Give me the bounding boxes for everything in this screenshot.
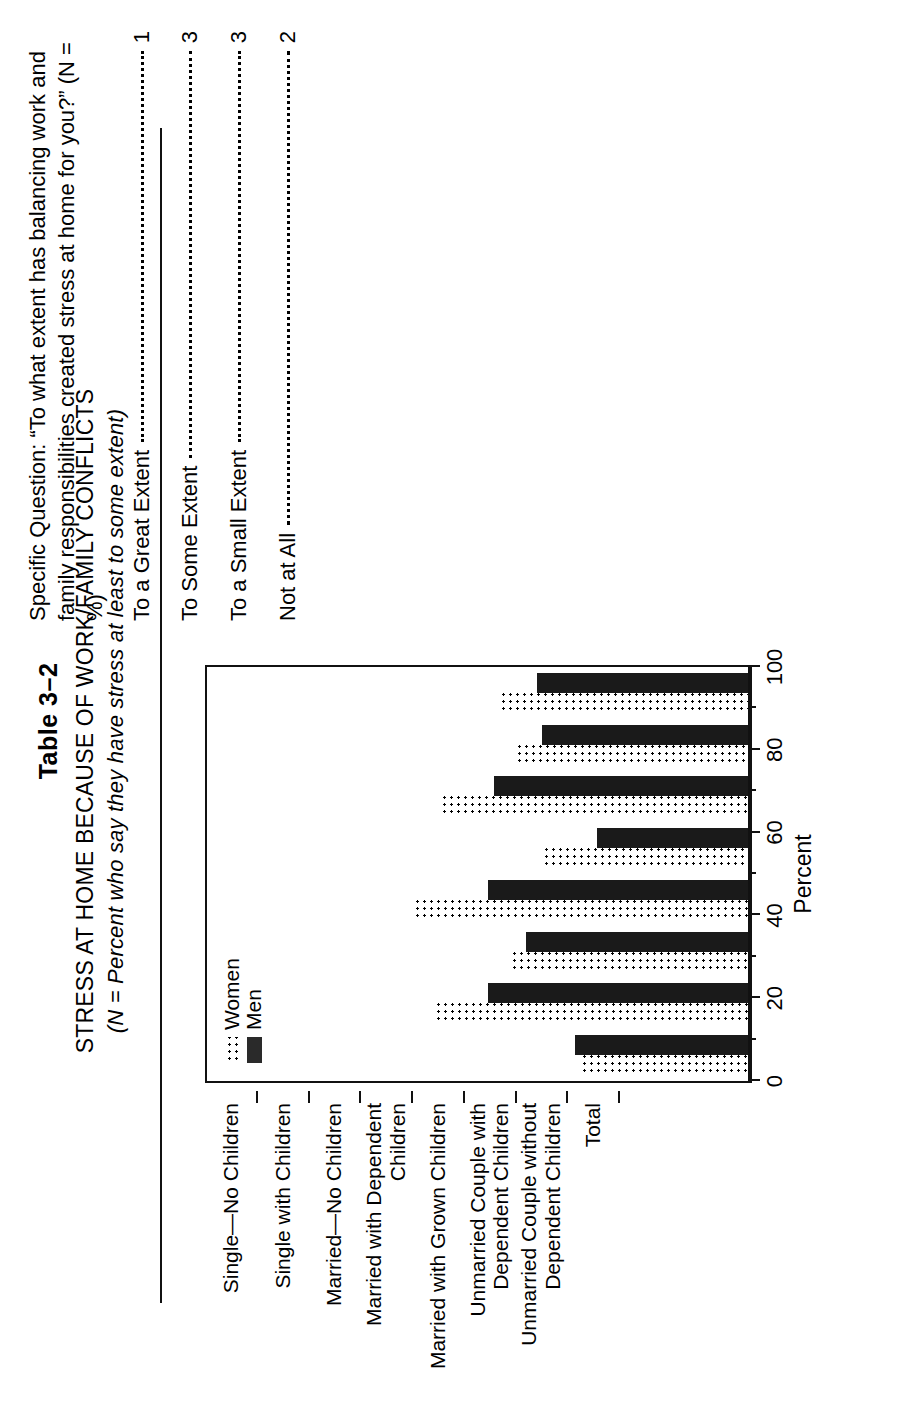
- bar-women: [542, 848, 748, 868]
- rotated-page-wrapper: Table 3–2 STRESS AT HOME BECAUSE OF WORK…: [0, 0, 906, 1421]
- axis-tick: [750, 1038, 756, 1040]
- category-label: Single—No Children: [219, 1103, 243, 1293]
- category-label: Married with Dependent Children: [363, 1103, 410, 1326]
- category-label: Total: [581, 1103, 605, 1147]
- answer-option-label: Not at All: [274, 533, 303, 621]
- bar-men: [575, 1035, 748, 1055]
- bar-women: [499, 693, 748, 713]
- bar-series-container: [207, 667, 748, 1081]
- answer-option-label: To Some Extent: [176, 466, 205, 621]
- answer-option-value: 2: [274, 31, 303, 43]
- question-note: Specific Question: “To what extent has b…: [24, 31, 322, 621]
- bar-women: [580, 1055, 748, 1075]
- percent-axis: 020406080100: [750, 665, 752, 1083]
- category-axis: Single—No ChildrenSingle with ChildrenMa…: [205, 1091, 750, 1401]
- category-tick: [308, 1091, 310, 1103]
- bar-women: [440, 796, 748, 816]
- bar-men: [597, 828, 748, 848]
- chart-plot-area: Women Men: [205, 665, 750, 1083]
- category-label: Single with Children: [271, 1103, 295, 1289]
- category-label: Married—No Children: [323, 1103, 347, 1306]
- bar-women: [413, 900, 748, 920]
- bar-men: [526, 932, 748, 952]
- axis-tick: [750, 789, 756, 791]
- category-tick: [411, 1091, 413, 1103]
- axis-tick-label: 80: [762, 738, 788, 762]
- bar-women: [434, 1003, 748, 1023]
- answer-option: To a Great Extent1: [128, 31, 157, 621]
- axis-tick: [750, 872, 756, 874]
- bar-group: [207, 880, 748, 920]
- bar-group: [207, 673, 748, 713]
- category-tick: [515, 1091, 517, 1103]
- axis-tick-label: 40: [762, 903, 788, 927]
- axis-tick: [750, 955, 756, 957]
- bar-group: [207, 828, 748, 868]
- bar-group: [207, 1035, 748, 1075]
- answer-option-value: 1: [128, 31, 157, 43]
- bar-group: [207, 983, 748, 1023]
- category-tick: [463, 1091, 465, 1103]
- answer-option: To Some Extent3: [176, 31, 205, 621]
- answer-option: Not at All2: [274, 31, 303, 621]
- bar-group: [207, 776, 748, 816]
- answer-option-label: To a Small Extent: [225, 450, 254, 621]
- category-tick: [618, 1091, 620, 1103]
- category-tick: [256, 1091, 258, 1103]
- category-label: Unmarried Couple with Dependent Children: [466, 1103, 513, 1317]
- bar-group: [207, 725, 748, 765]
- leader-dots: [189, 51, 192, 457]
- bar-men: [542, 725, 748, 745]
- answer-option-label: To a Great Extent: [128, 450, 157, 621]
- axis-tick-label: 20: [762, 986, 788, 1010]
- bar-women: [510, 952, 748, 972]
- axis-tick: [750, 996, 760, 998]
- bar-group: [207, 932, 748, 972]
- axis-tick-label: 60: [762, 820, 788, 844]
- answer-option: To a Small Extent3: [225, 31, 254, 621]
- bar-men: [537, 673, 748, 693]
- axis-tick: [750, 913, 760, 915]
- category-label: Unmarried Couple without Dependent Child…: [518, 1103, 565, 1346]
- bar-men: [488, 880, 748, 900]
- category-label: Married with Grown Children: [426, 1103, 450, 1369]
- bar-men: [494, 776, 748, 796]
- axis-title-percent: Percent: [790, 665, 817, 1083]
- axis-tick: [750, 706, 756, 708]
- category-tick: [566, 1091, 568, 1103]
- axis-tick: [750, 1079, 760, 1081]
- leader-dots: [141, 51, 144, 442]
- axis-tick: [750, 831, 760, 833]
- answer-option-list: To a Great Extent1To Some Extent3To a Sm…: [128, 31, 302, 621]
- bar-women: [515, 745, 748, 765]
- axis-tick-label: 0: [762, 1075, 788, 1087]
- table-page: Table 3–2 STRESS AT HOME BECAUSE OF WORK…: [0, 0, 906, 1421]
- bar-men: [488, 983, 748, 1003]
- leader-dots: [287, 51, 290, 525]
- leader-dots: [238, 51, 241, 442]
- answer-option-value: 3: [176, 31, 205, 43]
- axis-tick-label: 100: [762, 649, 788, 686]
- question-text: Specific Question: “To what extent has b…: [24, 31, 110, 621]
- category-tick: [359, 1091, 361, 1103]
- answer-option-value: 3: [225, 31, 254, 43]
- axis-tick: [750, 665, 760, 667]
- axis-tick: [750, 748, 760, 750]
